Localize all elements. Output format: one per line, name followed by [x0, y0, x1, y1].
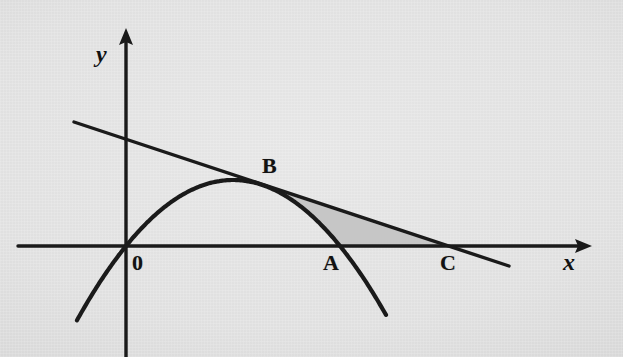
- parabola-curve: [77, 180, 386, 320]
- y-axis-label: y: [96, 42, 107, 66]
- point-label-origin: 0: [132, 252, 143, 274]
- x-axis-label: x: [563, 250, 575, 274]
- point-label-b: B: [262, 155, 277, 177]
- plot-canvas: [0, 0, 623, 357]
- point-label-c: C: [440, 252, 456, 274]
- point-label-a: A: [323, 252, 339, 274]
- geometry-figure: y x 0 A B C: [0, 0, 623, 357]
